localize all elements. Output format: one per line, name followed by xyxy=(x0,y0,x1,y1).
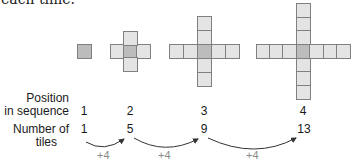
difference-label: +4 xyxy=(97,149,110,161)
difference-label: +4 xyxy=(158,149,171,161)
difference-label: +4 xyxy=(246,149,259,161)
increment-arrows xyxy=(0,0,356,162)
